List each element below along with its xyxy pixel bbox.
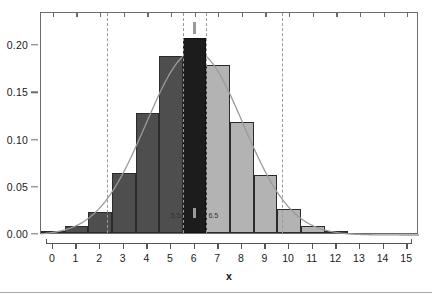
plot-top-tick: [336, 13, 337, 17]
x-axis-tick-mark: [406, 243, 407, 249]
x-axis-tick-label: 7: [214, 252, 220, 264]
plot-top-tick: [124, 13, 125, 17]
y-axis-tick-mark: [31, 44, 38, 45]
x-axis-tick-label: 9: [262, 252, 268, 264]
x-axis-tick-label: 5: [167, 252, 173, 264]
y-axis-tick-label: 0.20: [7, 39, 28, 51]
reference-line: [183, 13, 184, 233]
y-axis: 0.000.050.100.150.20: [0, 0, 40, 246]
x-axis-tick-mark: [241, 243, 242, 249]
x-axis-tick-label: 8: [238, 252, 244, 264]
y-axis-tick-label: 0.05: [7, 181, 28, 193]
x-axis-endcap-left: [46, 239, 47, 244]
x-axis-tick-label: 13: [353, 252, 365, 264]
y-axis-tick-label: 0.10: [7, 134, 28, 146]
x-axis-tick-label: 6: [191, 252, 197, 264]
x-axis-tick-label: 3: [120, 252, 126, 264]
x-axis-tick-mark: [359, 243, 360, 249]
x-axis-tick-mark: [264, 243, 265, 249]
x-axis-tick-label: 4: [143, 252, 149, 264]
x-axis-tick-mark: [170, 243, 171, 249]
plot-top-tick: [313, 13, 314, 17]
x-axis-tick-mark: [52, 243, 53, 249]
x-axis-tick-mark: [288, 243, 289, 249]
reference-line: [107, 13, 108, 233]
plot-top-tick: [289, 13, 290, 17]
histogram-figure: 0.000.050.100.150.20 5.56.5 x 0123456789…: [0, 0, 432, 295]
x-axis-tick-mark: [312, 243, 313, 249]
x-axis-tick-mark: [217, 243, 218, 249]
x-axis-tick-mark: [383, 243, 384, 249]
plot-top-tick: [171, 13, 172, 17]
reference-line: [206, 13, 207, 233]
plot-top-tick: [218, 13, 219, 17]
y-axis-tick-label: 0.15: [7, 86, 28, 98]
x-axis-tick-label: 11: [306, 252, 317, 264]
plot-top-tick: [384, 13, 385, 17]
x-axis-title: x: [40, 270, 418, 282]
plot-top-tick: [265, 13, 266, 17]
x-axis: x 0123456789101112131415: [40, 243, 418, 295]
bin-edge-annotation: 5.5: [171, 211, 181, 220]
y-axis-tick-mark: [31, 233, 38, 234]
x-axis-line: [46, 243, 412, 244]
x-axis-endcap-right: [411, 239, 412, 244]
y-axis-tick-mark: [31, 139, 38, 140]
peak-marker: [193, 22, 196, 34]
x-axis-tick-mark: [194, 243, 195, 249]
x-axis-tick-label: 12: [329, 252, 341, 264]
plot-top-tick: [242, 13, 243, 17]
x-axis-tick-label: 1: [73, 252, 79, 264]
below-axis-marker: [193, 208, 196, 218]
plot-top-tick: [100, 13, 101, 17]
x-axis-tick-label: 14: [377, 252, 389, 264]
x-axis-tick-mark: [335, 243, 336, 249]
plot-frame: 5.56.5: [40, 12, 418, 234]
plot-area: 5.56.5: [41, 13, 417, 233]
x-axis-tick-label: 0: [49, 252, 55, 264]
x-axis-tick-label: 2: [96, 252, 102, 264]
normal-curve-overlay: [41, 13, 419, 235]
plot-top-tick: [407, 13, 408, 17]
reference-line: [282, 13, 283, 233]
y-axis-tick-label: 0.00: [7, 228, 28, 240]
x-axis-tick-label: 10: [282, 252, 294, 264]
plot-top-tick: [360, 13, 361, 17]
plot-top-tick: [147, 13, 148, 17]
x-axis-tick-mark: [99, 243, 100, 249]
y-axis-tick-mark: [31, 186, 38, 187]
x-axis-tick-mark: [146, 243, 147, 249]
plot-top-tick: [76, 13, 77, 17]
bin-edge-annotation: 6.5: [208, 211, 218, 220]
plot-top-tick: [53, 13, 54, 17]
x-axis-tick-label: 15: [400, 252, 412, 264]
footer-divider: [0, 292, 432, 294]
histogram-bar: [183, 38, 207, 233]
x-axis-tick-mark: [75, 243, 76, 249]
x-axis-tick-mark: [123, 243, 124, 249]
y-axis-tick-mark: [31, 92, 38, 93]
plot-top-tick: [195, 13, 196, 17]
